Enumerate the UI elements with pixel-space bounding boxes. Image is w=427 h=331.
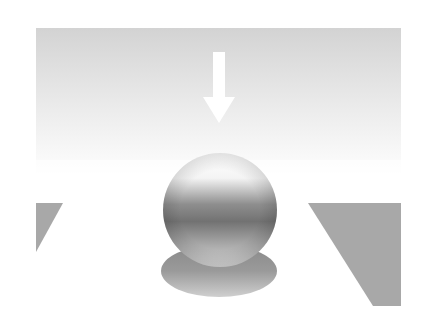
sphere-edge-shading <box>163 153 277 267</box>
sphere-lighting-diagram <box>0 0 427 331</box>
diagram-canvas <box>0 0 427 331</box>
right-panel <box>308 203 401 306</box>
left-panel <box>36 203 63 252</box>
